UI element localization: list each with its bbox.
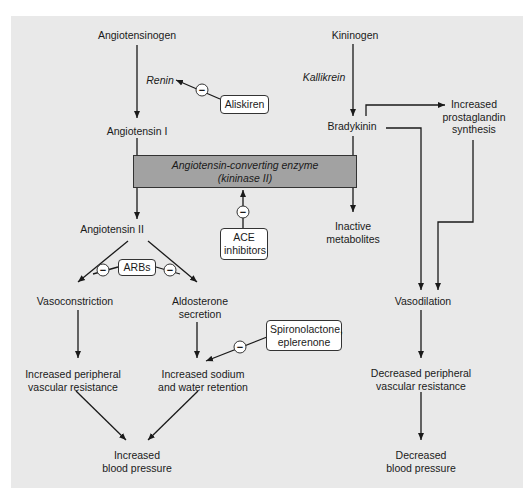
dec-pvr-line1: Decreased peripheral <box>371 367 471 380</box>
node-vasoconstriction: Vasoconstriction <box>37 295 113 308</box>
enzyme-line2: (kininase II) <box>134 172 356 185</box>
dec-pvr-line2: vascular resistance <box>371 380 471 393</box>
node-angiotensin-i: Angiotensin I <box>107 125 168 138</box>
node-inactive-metabolites: Inactive metabolites <box>326 220 380 245</box>
node-increased-prostaglandin: Increased prostaglandin synthesis <box>442 98 505 136</box>
drug-spironolactone: Spironolactone, eplerenone <box>266 320 342 351</box>
node-aldosterone-secretion: Aldosterone secretion <box>172 295 228 320</box>
node-increased-pvr: Increased peripheral vascular resistance <box>25 368 121 393</box>
inactive-line2: metabolites <box>326 233 380 246</box>
aldosterone-line1: Aldosterone <box>172 295 228 308</box>
drug-aliskiren: Aliskiren <box>220 95 269 114</box>
inhibit-icon-spironolactone: − <box>234 341 247 354</box>
node-angiotensin-ii: Angiotensin II <box>80 223 144 236</box>
inc-pvr-line1: Increased peripheral <box>25 368 121 381</box>
inactive-line1: Inactive <box>326 220 380 233</box>
inhibit-icon-arbs-left: − <box>97 264 110 277</box>
node-increased-sodium-retention: Increased sodium and water retention <box>158 368 248 393</box>
node-bradykinin: Bradykinin <box>327 120 376 133</box>
enzyme-kallikrein: Kallikrein <box>303 71 346 84</box>
drug-arbs: ARBs <box>118 259 156 276</box>
ace-enzyme-box: Angiotensin-converting enzyme (kininase … <box>133 155 357 188</box>
spiro-line1: Spironolactone, <box>270 323 338 336</box>
node-decreased-pvr: Decreased peripheral vascular resistance <box>371 367 471 392</box>
prosta-line3: synthesis <box>442 123 505 136</box>
inc-pvr-line2: vascular resistance <box>25 381 121 394</box>
node-vasodilation: Vasodilation <box>395 295 451 308</box>
dec-bp-line1: Decreased <box>386 449 455 462</box>
inhibit-icon-aliskiren: − <box>196 84 209 97</box>
enzyme-line1: Angiotensin-converting enzyme <box>134 159 356 172</box>
node-decreased-bp: Decreased blood pressure <box>386 449 455 474</box>
spiro-line2: eplerenone <box>270 336 338 349</box>
inhibit-icon-ace: − <box>237 206 250 219</box>
inc-bp-line2: blood pressure <box>102 462 171 475</box>
inc-bp-line1: Increased <box>102 449 171 462</box>
inc-na-line1: Increased sodium <box>158 368 248 381</box>
node-angiotensinogen: Angiotensinogen <box>98 29 176 42</box>
inc-na-line2: and water retention <box>158 381 248 394</box>
ace-line2: inhibitors <box>224 244 264 257</box>
node-kininogen: Kininogen <box>332 29 379 42</box>
enzyme-renin: Renin <box>146 74 173 87</box>
inhibit-icon-arbs-right: − <box>164 264 177 277</box>
ace-line1: ACE <box>224 231 264 244</box>
dec-bp-line2: blood pressure <box>386 462 455 475</box>
prosta-line2: prostaglandin <box>442 111 505 124</box>
prosta-line1: Increased <box>442 98 505 111</box>
aldosterone-line2: secretion <box>172 308 228 321</box>
node-increased-bp: Increased blood pressure <box>102 449 171 474</box>
drug-ace-inhibitors: ACE inhibitors <box>220 228 268 260</box>
